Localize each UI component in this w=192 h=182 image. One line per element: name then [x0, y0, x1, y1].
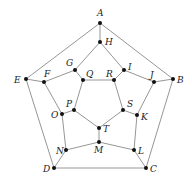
edge-I-R	[114, 70, 124, 80]
vertex-label-M: M	[93, 145, 104, 155]
vertex-label-S: S	[127, 99, 133, 109]
vertex-label-D: D	[42, 164, 50, 174]
vertex-I	[122, 68, 126, 72]
vertex-A	[98, 21, 102, 25]
edge-B-C	[146, 79, 173, 168]
vertex-label-Q: Q	[86, 69, 94, 79]
vertex-B	[171, 77, 175, 81]
edge-M-L	[99, 142, 134, 150]
vertex-D	[52, 166, 56, 170]
edge-E-F	[26, 79, 44, 82]
graph-labels: ABCDEFGHIJKLMNOPQRST	[13, 8, 184, 174]
edge-H-G	[75, 42, 100, 70]
vertex-label-A: A	[96, 8, 104, 18]
vertex-F	[42, 80, 46, 84]
vertex-K	[135, 113, 139, 117]
vertex-label-P: P	[65, 99, 73, 109]
edge-B-J	[154, 79, 173, 82]
vertex-label-H: H	[104, 37, 113, 47]
vertex-M	[97, 140, 101, 144]
vertex-L	[132, 148, 136, 152]
vertex-E	[24, 77, 28, 81]
edge-O-N	[62, 114, 66, 150]
vertex-label-L: L	[137, 146, 144, 156]
edge-K-S	[123, 110, 137, 115]
vertex-label-G: G	[66, 58, 73, 68]
vertex-label-F: F	[43, 69, 51, 79]
vertex-label-K: K	[140, 112, 149, 122]
vertex-label-R: R	[105, 69, 113, 79]
vertex-Q	[81, 78, 85, 82]
edge-L-K	[134, 115, 137, 150]
vertex-S	[121, 108, 125, 112]
vertex-label-E: E	[13, 75, 21, 85]
vertex-label-N: N	[55, 146, 65, 156]
vertex-T	[97, 126, 101, 130]
edge-K-J	[137, 82, 154, 115]
vertex-label-C: C	[150, 164, 157, 174]
vertex-P	[72, 108, 76, 112]
vertex-label-J: J	[148, 70, 155, 80]
dodecahedral-graph: ABCDEFGHIJKLMNOPQRST	[0, 0, 192, 182]
edge-T-P	[74, 110, 99, 128]
vertex-label-B: B	[176, 75, 184, 85]
vertex-C	[144, 166, 148, 170]
vertex-label-I: I	[127, 62, 132, 72]
vertex-J	[152, 80, 156, 84]
vertex-N	[64, 148, 68, 152]
vertex-O	[60, 112, 64, 116]
vertex-G	[73, 68, 77, 72]
vertex-label-T: T	[103, 124, 110, 134]
vertex-H	[98, 40, 102, 44]
edge-P-Q	[74, 80, 83, 110]
vertex-label-O: O	[51, 110, 59, 120]
edge-R-S	[114, 80, 123, 110]
